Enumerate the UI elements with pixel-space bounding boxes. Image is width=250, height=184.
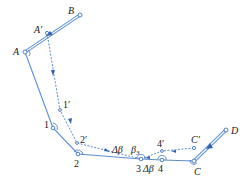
arrow-icon [104,148,110,152]
station-1-prime-marker [59,109,62,112]
label-delta-beta-lower: Δβ [142,163,154,174]
label-c: C [194,166,201,177]
label-d: D [230,125,239,136]
station-d-marker [224,128,228,132]
station-4-marker [160,158,164,162]
label-1-prime: 1′ [63,99,70,110]
station-c-marker [192,159,196,163]
station-b-marker [78,13,82,17]
station-a-prime-marker [45,31,48,34]
station-2-prime-marker [76,142,79,145]
erroneous-traverse [47,33,141,159]
label-delta-beta-upper: Δβ [111,144,123,155]
station-a-marker [23,50,27,54]
label-2: 2 [74,158,79,169]
label-4-prime: 4′ [157,138,164,149]
label-beta3: β3 [130,144,140,157]
label-a: A [12,46,20,57]
label-c-prime: C′ [191,134,201,145]
label-2-prime: 2′ [80,134,87,145]
station-2-marker [76,152,80,156]
true-traverse [25,52,194,161]
arrow-icon [68,118,72,124]
station-3-marker [139,157,143,161]
station-1-marker [51,126,55,130]
label-a-prime: A′ [33,24,43,35]
label-3: 3 [136,163,141,174]
label-1: 1 [44,119,49,130]
station-4-prime-marker [161,150,164,153]
label-4: 4 [158,163,163,174]
traverse-diagram: B A A′ 1 1′ 2 2′ Δβ β3 3 Δβ 4 4′ C′ C D [0,0,250,184]
station-c-prime-marker [192,146,195,149]
label-b: B [68,5,74,16]
